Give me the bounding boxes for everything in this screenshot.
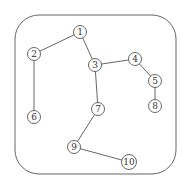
node-3: 3 (89, 59, 102, 72)
edge-9-10 (74, 147, 129, 162)
node-1: 1 (74, 26, 87, 39)
node-9: 9 (68, 141, 81, 154)
node-5: 5 (149, 75, 162, 88)
graph-canvas: 12345678910 (0, 0, 188, 189)
node-7: 7 (92, 103, 105, 116)
node-label: 3 (92, 60, 98, 70)
edge-1-2 (34, 32, 80, 54)
node-label: 6 (31, 112, 37, 122)
node-label: 8 (152, 101, 158, 111)
edges-layer (34, 32, 155, 162)
rounded-frame (15, 15, 176, 174)
node-label: 7 (95, 104, 101, 114)
node-8: 8 (149, 100, 162, 113)
node-2: 2 (28, 48, 41, 61)
graph-diagram: 12345678910 (0, 0, 188, 189)
node-label: 1 (77, 27, 83, 37)
node-label: 10 (123, 157, 135, 167)
node-label: 4 (132, 54, 138, 64)
node-10: 10 (122, 155, 137, 170)
node-label: 5 (152, 76, 158, 86)
node-6: 6 (28, 111, 41, 124)
node-label: 2 (31, 49, 37, 59)
node-label: 9 (71, 142, 77, 152)
node-4: 4 (129, 53, 142, 66)
